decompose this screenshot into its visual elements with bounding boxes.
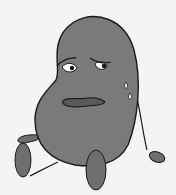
right-foot	[86, 150, 106, 190]
left-foot	[15, 143, 31, 177]
bean-character-illustration	[0, 0, 176, 195]
